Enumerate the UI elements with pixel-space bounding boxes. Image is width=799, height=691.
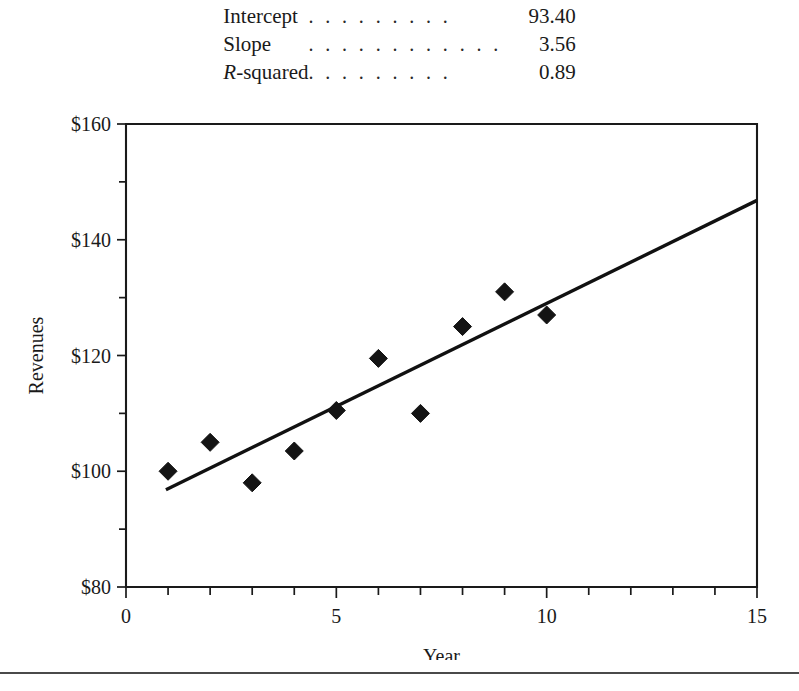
y-axis-tick-labels: $80$100$120$140$160 [71, 113, 111, 598]
stat-leader-slope: . . . . . . . . . . . . [308, 30, 501, 58]
stat-label-intercept: Intercept [223, 2, 308, 30]
x-tick-label: 5 [331, 605, 341, 627]
y-tick-label: $160 [71, 113, 111, 135]
y-axis-ticks [117, 124, 126, 587]
scatter-chart: $80$100$120$140$160 051015 Revenues Year [0, 100, 799, 660]
chart-canvas: $80$100$120$140$160 051015 Revenues Year [0, 100, 799, 660]
x-axis-ticks [126, 587, 757, 598]
stat-leader-r-squared: . . . . . . . . . [308, 58, 501, 86]
stat-label-slope: Slope [223, 30, 308, 58]
x-axis-title: Year [423, 645, 460, 660]
trendline-segment [166, 200, 757, 489]
stat-label-r-squared: R-squared [223, 58, 308, 86]
data-point-marker [159, 462, 177, 480]
data-point-marker [243, 474, 261, 492]
stat-value-r-squared: 0.89 [502, 58, 576, 86]
data-point-marker [454, 318, 472, 336]
data-point-marker [496, 283, 514, 301]
table-row: R-squared . . . . . . . . . 0.89 [223, 58, 575, 86]
regression-trendline [166, 200, 757, 489]
data-point-marker [285, 442, 303, 460]
data-point-marker [411, 404, 429, 422]
x-tick-label: 15 [747, 605, 767, 627]
stat-leader-intercept: . . . . . . . . . [308, 2, 501, 30]
x-axis-tick-labels: 051015 [121, 605, 767, 627]
x-tick-label: 10 [537, 605, 557, 627]
data-point-marker [201, 433, 219, 451]
y-tick-label: $140 [71, 229, 111, 251]
page-divider-rule [0, 672, 799, 674]
x-tick-label: 0 [121, 605, 131, 627]
y-tick-label: $100 [71, 460, 111, 482]
regression-statistics-table: Intercept . . . . . . . . . 93.40 Slope … [223, 2, 575, 86]
stat-value-intercept: 93.40 [502, 2, 576, 30]
y-tick-label: $120 [71, 345, 111, 367]
r-symbol: R [223, 60, 236, 84]
data-point-marker [538, 306, 556, 324]
y-tick-label: $80 [81, 576, 111, 598]
table-row: Intercept . . . . . . . . . 93.40 [223, 2, 575, 30]
data-points [159, 283, 556, 492]
y-axis-title: Revenues [25, 316, 47, 394]
regression-statistics-block: Intercept . . . . . . . . . 93.40 Slope … [0, 0, 799, 100]
table-row: Slope . . . . . . . . . . . . 3.56 [223, 30, 575, 58]
data-point-marker [369, 349, 387, 367]
stat-value-slope: 3.56 [502, 30, 576, 58]
